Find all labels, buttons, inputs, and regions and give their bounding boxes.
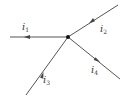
junction-node: [66, 35, 70, 39]
arrow-left-icon: [24, 35, 30, 39]
branch-i2: [68, 5, 118, 37]
label-i1-subscript: 1: [25, 26, 29, 33]
label-i4: i4: [91, 65, 98, 76]
label-i3-subscript: 3: [46, 79, 50, 86]
label-i2-subscript: 2: [103, 28, 107, 35]
circuit-node-diagram: [0, 0, 135, 101]
branch-i3: [26, 37, 68, 95]
label-i4-subscript: 4: [94, 69, 98, 76]
label-i2: i2: [100, 24, 107, 35]
branch-i1: [10, 35, 68, 39]
label-i1: i1: [22, 22, 29, 33]
arrow-toward-node-icon: [89, 18, 95, 24]
label-i3: i3: [43, 75, 50, 86]
